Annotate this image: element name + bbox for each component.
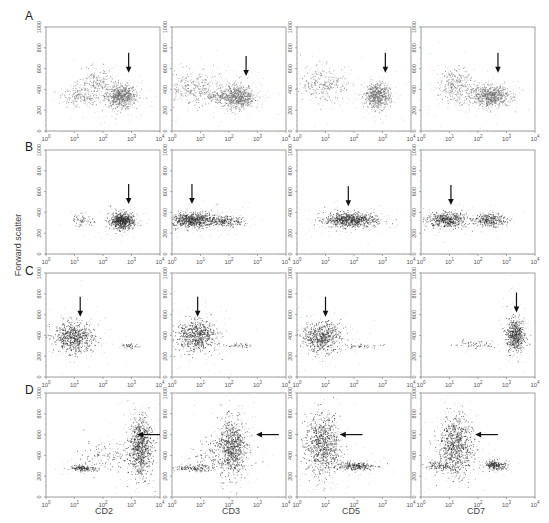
x-tick-label: 102 <box>224 500 234 508</box>
y-tick-label: 600 <box>36 64 42 73</box>
scatter-panel-a-cd7: 02004006008001000100101102103104 <box>405 27 541 149</box>
plot-frame <box>421 150 535 254</box>
arrow-icon <box>189 184 195 204</box>
x-tick-label: 100 <box>167 500 177 508</box>
x-tick-label: 100 <box>416 500 426 508</box>
x-tick-label: 100 <box>41 257 51 265</box>
y-tick-label: 1000 <box>411 267 417 279</box>
scatter-points <box>52 59 156 124</box>
y-tick-label: 800 <box>162 289 168 298</box>
x-tick-label: 101 <box>445 380 455 388</box>
arrow-icon <box>126 184 132 204</box>
y-tick-label: 400 <box>36 208 42 217</box>
x-tick-label: 101 <box>445 500 455 508</box>
x-tick-label: 103 <box>502 380 512 388</box>
scatter-panel-b-cd7: 02004006008001000100101102103104 <box>405 150 541 272</box>
x-tick-label: 103 <box>127 380 137 388</box>
scatter-points <box>423 204 524 243</box>
y-tick-label: 800 <box>36 166 42 175</box>
x-tick-label: 103 <box>502 257 512 265</box>
scatter-points <box>172 393 275 496</box>
x-tick-label: 102 <box>349 380 359 388</box>
y-tick-label: 200 <box>36 472 42 481</box>
x-tick-label: 100 <box>41 134 51 142</box>
y-tick-label: 400 <box>411 331 417 340</box>
plot-frame <box>46 150 160 254</box>
x-tick-label: 102 <box>349 134 359 142</box>
y-tick-label: 0 <box>162 495 168 498</box>
y-tick-label: 400 <box>162 331 168 340</box>
x-tick-label: 101 <box>196 134 206 142</box>
y-tick-label: 0 <box>162 129 168 132</box>
y-tick-label: 600 <box>162 430 168 439</box>
plot-frame <box>172 150 286 254</box>
y-tick-label: 200 <box>411 106 417 115</box>
x-tick-label: 103 <box>502 134 512 142</box>
y-tick-label: 1000 <box>287 21 293 33</box>
y-tick-label: 0 <box>36 129 42 132</box>
y-tick-label: 400 <box>162 208 168 217</box>
x-tick-label: 100 <box>167 257 177 265</box>
x-tick-label: 100 <box>416 380 426 388</box>
y-tick-label: 0 <box>411 252 417 255</box>
y-tick-label: 600 <box>287 310 293 319</box>
arrow-icon <box>340 432 363 438</box>
x-tick-label: 102 <box>98 500 108 508</box>
y-tick-label: 0 <box>36 252 42 255</box>
y-tick-label: 800 <box>36 409 42 418</box>
x-tick-label: 102 <box>224 134 234 142</box>
y-tick-label: 600 <box>36 430 42 439</box>
x-tick-label: 104 <box>530 134 540 142</box>
x-tick-label: 100 <box>416 134 426 142</box>
y-tick-label: 600 <box>36 310 42 319</box>
x-tick-label: 101 <box>70 380 80 388</box>
x-tick-label: 102 <box>98 257 108 265</box>
x-tick-label: 103 <box>378 500 388 508</box>
y-tick-label: 800 <box>411 289 417 298</box>
y-tick-label: 200 <box>162 472 168 481</box>
plot-frame <box>297 150 411 254</box>
y-tick-label: 1000 <box>36 387 42 399</box>
x-tick-label: 103 <box>253 500 263 508</box>
plot-frame <box>421 27 535 131</box>
y-tick-label: 600 <box>411 187 417 196</box>
x-tick-label: 101 <box>321 380 331 388</box>
x-tick-label: 101 <box>70 257 80 265</box>
x-tick-label: 103 <box>127 500 137 508</box>
y-tick-label: 600 <box>287 430 293 439</box>
x-tick-label: 101 <box>196 380 206 388</box>
plot-frame <box>297 273 411 377</box>
arrow-icon <box>346 186 352 206</box>
y-tick-label: 0 <box>287 129 293 132</box>
x-tick-label: 102 <box>349 500 359 508</box>
arrow-icon <box>126 53 132 73</box>
y-tick-label: 1000 <box>36 267 42 279</box>
y-tick-label: 600 <box>162 64 168 73</box>
y-tick-label: 1000 <box>162 267 168 279</box>
x-tick-label: 102 <box>98 380 108 388</box>
scatter-panel-a-cd5: 02004006008001000100101102103104 <box>281 27 417 149</box>
y-tick-label: 800 <box>411 166 417 175</box>
y-tick-label: 600 <box>287 187 293 196</box>
y-tick-label: 1000 <box>162 387 168 399</box>
scatter-panel-d-cd2: 02004006008001000100101102103104 <box>30 393 166 515</box>
y-tick-label: 0 <box>411 129 417 132</box>
x-tick-label: 102 <box>98 134 108 142</box>
y-tick-label: 1000 <box>36 144 42 156</box>
arrow-icon <box>495 53 501 73</box>
y-tick-label: 0 <box>287 375 293 378</box>
scatter-points <box>297 55 407 128</box>
y-tick-label: 600 <box>411 310 417 319</box>
arrow-icon <box>448 185 454 205</box>
y-tick-label: 0 <box>36 375 42 378</box>
arrow-icon <box>256 432 279 438</box>
y-tick-label: 600 <box>287 64 293 73</box>
y-tick-label: 600 <box>162 187 168 196</box>
x-tick-label: 102 <box>224 380 234 388</box>
y-tick-label: 1000 <box>411 387 417 399</box>
x-tick-label: 102 <box>224 257 234 265</box>
x-tick-label: 100 <box>292 257 302 265</box>
x-tick-label: 100 <box>167 134 177 142</box>
y-tick-label: 1000 <box>162 144 168 156</box>
y-tick-label: 0 <box>287 495 293 498</box>
